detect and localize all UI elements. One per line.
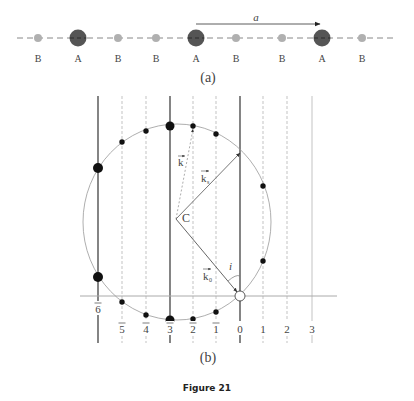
atom-label: A xyxy=(192,53,200,64)
atom-b xyxy=(358,34,366,42)
origin-point xyxy=(235,291,245,301)
point-large xyxy=(166,122,175,131)
order-label: 2 xyxy=(284,323,290,335)
point-small xyxy=(143,128,148,133)
figure-caption: Figure 21 xyxy=(0,383,414,393)
atom-label: B xyxy=(359,53,366,64)
atom-label: B xyxy=(115,53,122,64)
angle-label: i xyxy=(229,260,232,272)
point-small xyxy=(119,299,124,304)
ewald-circle xyxy=(83,124,271,320)
order-label: 5 xyxy=(119,323,125,335)
panel-b-ewald: C k k s k 0 i 6543210123 (b) xyxy=(80,96,337,366)
order-label: 4 xyxy=(143,323,149,335)
atom-b xyxy=(278,34,286,42)
atom-b xyxy=(232,34,240,42)
atom-label: A xyxy=(318,53,326,64)
diagram-canvas: a BABBABBAB (a) xyxy=(0,0,414,401)
angle-arc xyxy=(228,276,240,281)
point-small xyxy=(119,139,124,144)
atom-label: B xyxy=(35,53,42,64)
point-small xyxy=(143,312,148,317)
atom-row: BABBABBAB xyxy=(34,30,366,65)
order-label: 1 xyxy=(213,323,219,335)
point-small xyxy=(190,123,195,128)
order-label: 3 xyxy=(167,323,173,335)
k0-label: k 0 xyxy=(203,269,212,283)
reciprocal-rods xyxy=(98,96,312,343)
point-small xyxy=(190,316,195,321)
order-label: 2 xyxy=(190,323,196,335)
atom-label: B xyxy=(233,53,240,64)
order-label: 0 xyxy=(237,323,243,335)
atom-label: B xyxy=(279,53,286,64)
svg-text:k: k xyxy=(178,156,184,168)
panel-b-label: (b) xyxy=(200,350,217,366)
order-label: 6 xyxy=(95,303,101,315)
atom-label: B xyxy=(153,53,160,64)
atom-b xyxy=(152,34,160,42)
order-label: 1 xyxy=(260,323,266,335)
atom-b xyxy=(34,34,42,42)
center-label: C xyxy=(182,211,190,225)
atom-label: A xyxy=(74,53,82,64)
panel-a-label: (a) xyxy=(200,70,216,86)
ks-label: k s xyxy=(201,171,210,185)
point-small xyxy=(213,309,218,314)
svg-text:0: 0 xyxy=(209,277,212,283)
point-small xyxy=(260,258,265,263)
k-vector xyxy=(176,129,193,219)
atom-b xyxy=(114,34,122,42)
order-labels: 6543210123 xyxy=(94,301,316,335)
panel-a-chain: a BABBABBAB (a) xyxy=(17,11,397,86)
point-large xyxy=(93,163,103,173)
order-label: 3 xyxy=(309,323,315,335)
ks-vector xyxy=(176,153,240,219)
lattice-vector-label: a xyxy=(253,11,259,23)
k-label: k xyxy=(178,156,185,168)
point-small xyxy=(260,183,265,188)
point-small xyxy=(213,131,218,136)
point-large xyxy=(93,272,103,282)
